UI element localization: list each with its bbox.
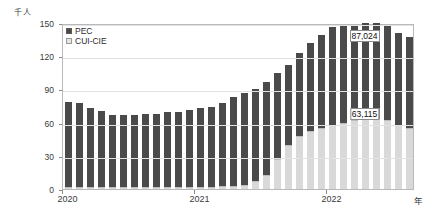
bar-segment-pec [208,107,215,187]
bar-segment-pec [230,97,237,186]
bar-segment-cui-cie [373,119,380,189]
legend-item-pec: PEC [66,26,107,36]
bar-segment-pec [241,93,248,184]
x-axis-tick-label: 2022 [321,194,341,204]
gridline [63,25,413,26]
bar [197,108,204,189]
bar-segment-pec [164,112,171,188]
chart-legend: PEC CUI-CIE [66,26,107,46]
pec-value-label: 87,024 [350,30,380,42]
y-axis-tick-label: 60 [8,119,54,129]
bar-segment-pec [76,103,83,188]
bar [307,43,314,189]
legend-swatch-pec [66,28,72,34]
bar [98,111,105,189]
bar [285,65,292,189]
bar-segment-cui-cie [219,186,226,189]
bar [76,103,83,189]
bar-segment-cui-cie [296,136,303,189]
bar-segment-pec [252,89,259,181]
bar [131,115,138,189]
bar [87,108,94,189]
bar-segment-pec [131,115,138,187]
bar-segment-cui-cie [65,187,72,189]
bar-segment-cui-cie [384,120,391,189]
bar [384,25,391,189]
bar [362,23,369,189]
gridline [63,158,413,159]
y-axis-tick-mark [59,90,62,91]
bar-segment-cui-cie [285,145,292,189]
bar-segment-pec [384,25,391,120]
legend-swatch-cui-cie [66,38,72,44]
bar-segment-cui-cie [208,187,215,189]
bar-segment-cui-cie [263,175,270,189]
gridline [63,125,413,126]
bar [252,89,259,189]
y-axis-tick-label: 150 [8,19,54,29]
bar-segment-cui-cie [98,187,105,189]
bar-segment-pec [296,53,303,136]
gridline [63,91,413,92]
bar-segment-cui-cie [351,120,358,189]
bar-segment-pec [65,102,72,187]
plot-area [62,24,414,190]
x-axis-tick-mark [326,190,327,194]
x-axis-tick-label: 2021 [189,194,209,204]
bar-segment-pec [175,112,182,187]
bar-segment-cui-cie [186,187,193,189]
bar-segment-pec [197,108,204,188]
bar-segment-cui-cie [153,187,160,189]
y-axis-tick-label: 30 [8,152,54,162]
bar [274,73,281,189]
bar [186,110,193,189]
bar-segment-pec [120,115,127,187]
bar-segment-pec [406,37,413,128]
bar-segment-cui-cie [230,186,237,189]
bar [263,82,270,189]
bar [208,107,215,189]
bar-segment-cui-cie [252,181,259,189]
y-axis-tick-mark [59,57,62,58]
bar [296,53,303,189]
bar-segment-cui-cie [340,123,347,189]
legend-label-cui-cie: CUI-CIE [75,36,107,46]
bar-group [63,25,413,189]
y-axis-tick-mark [59,157,62,158]
bar-segment-cui-cie [175,187,182,189]
bar [219,103,226,189]
y-axis-tick-label: 90 [8,85,54,95]
bar [340,26,347,189]
bar [373,23,380,189]
bar-segment-pec [219,103,226,187]
chart-container: 千人 0306090120150 202020212022 87,02463,1… [0,0,427,217]
bar-segment-cui-cie [197,187,204,189]
x-axis-unit-label: 年 [414,194,423,206]
y-axis-tick-label: 120 [8,52,54,62]
bar [109,115,116,189]
bar-segment-pec [329,27,336,124]
legend-label-pec: PEC [75,26,92,36]
y-axis-unit-label: 千人 [14,6,31,17]
bar [241,93,248,189]
bar-segment-pec [274,73,281,159]
legend-item-cui-cie: CUI-CIE [66,36,107,46]
bar [406,37,413,189]
bar-segment-pec [395,33,402,125]
y-axis-tick-mark [59,24,62,25]
cui-value-label: 63,115 [350,108,379,120]
bar-segment-cui-cie [131,187,138,189]
bar-segment-cui-cie [76,187,83,189]
bar [329,27,336,189]
y-axis-tick-mark [59,124,62,125]
x-axis-tick-mark [194,190,195,194]
bar-segment-pec [307,43,314,132]
bar-segment-cui-cie [87,187,94,189]
bar-segment-cui-cie [362,119,369,189]
bar [395,33,402,189]
bar-segment-pec [98,111,105,187]
bar-segment-cui-cie [241,185,248,189]
bar-segment-pec [318,35,325,128]
bar [164,112,171,189]
bar-segment-cui-cie [120,187,127,189]
